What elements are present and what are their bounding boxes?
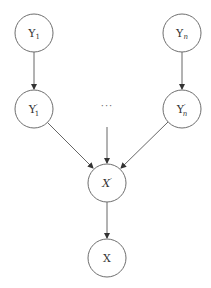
node-y1: Y1 bbox=[15, 14, 53, 52]
node-subscript: 1 bbox=[35, 110, 39, 118]
node-subscript: n bbox=[183, 33, 188, 41]
svg-text:X: X bbox=[103, 252, 111, 265]
node-label: X bbox=[103, 252, 111, 265]
node-yn: Yn bbox=[163, 14, 201, 52]
node-yn-prime: Y′n bbox=[163, 90, 201, 128]
edge-y1prime-to-xprime bbox=[47, 122, 93, 168]
node-x-prime: X′ bbox=[88, 164, 126, 202]
node-y1-prime: Y′1 bbox=[15, 90, 53, 128]
diagram-canvas: Y1 Yn Y′1 Y′n ··· X′ X bbox=[0, 0, 211, 288]
node-x: X bbox=[88, 239, 126, 277]
node-subscript: 1 bbox=[35, 33, 39, 41]
edge-ynprime-to-xprime bbox=[121, 122, 168, 168]
ellipsis: ··· bbox=[101, 100, 114, 111]
svg-text:Y′1: Y′1 bbox=[28, 103, 39, 118]
node-subscript: n bbox=[183, 110, 188, 118]
